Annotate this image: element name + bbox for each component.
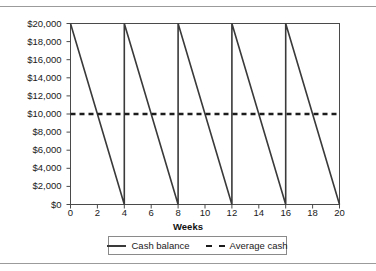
x-axis-title: Weeks: [0, 221, 376, 232]
y-tick-label: $16,000: [0, 55, 62, 65]
legend-label-average-cash: Average cash: [230, 240, 288, 251]
legend-item-cash-balance: Cash balance: [107, 240, 189, 251]
y-tick-label: $10,000: [0, 109, 62, 119]
legend-swatch-dashed-icon: [206, 245, 225, 247]
x-tick-label: 12: [220, 208, 244, 218]
x-tick-label: 6: [139, 208, 163, 218]
x-tick-label: 20: [328, 208, 352, 218]
x-tick-label: 8: [166, 208, 190, 218]
legend-label-cash-balance: Cash balance: [131, 240, 189, 251]
y-tick-label: $2,000: [0, 181, 62, 191]
y-tick-label: $20,000: [0, 19, 62, 29]
cash-balance-chart: $0$2,000$4,000$6,000$8,000$10,000$12,000…: [0, 0, 376, 271]
y-tick-label: $12,000: [0, 91, 62, 101]
legend-swatch-solid-icon: [107, 245, 126, 247]
y-axis-ticks: [67, 24, 71, 205]
y-tick-label: $18,000: [0, 37, 62, 47]
x-tick-label: 10: [193, 208, 217, 218]
x-tick-label: 4: [112, 208, 136, 218]
x-tick-label: 2: [85, 208, 109, 218]
x-tick-label: 0: [59, 208, 83, 218]
x-tick-label: 14: [247, 208, 271, 218]
y-tick-label: $0: [0, 200, 62, 210]
chart-legend: Cash balance Average cash: [108, 236, 287, 255]
x-tick-label: 18: [301, 208, 325, 218]
y-tick-label: $4,000: [0, 163, 62, 173]
y-tick-label: $8,000: [0, 127, 62, 137]
legend-item-average-cash: Average cash: [206, 240, 288, 251]
y-tick-label: $14,000: [0, 73, 62, 83]
x-tick-label: 16: [274, 208, 298, 218]
y-tick-label: $6,000: [0, 145, 62, 155]
